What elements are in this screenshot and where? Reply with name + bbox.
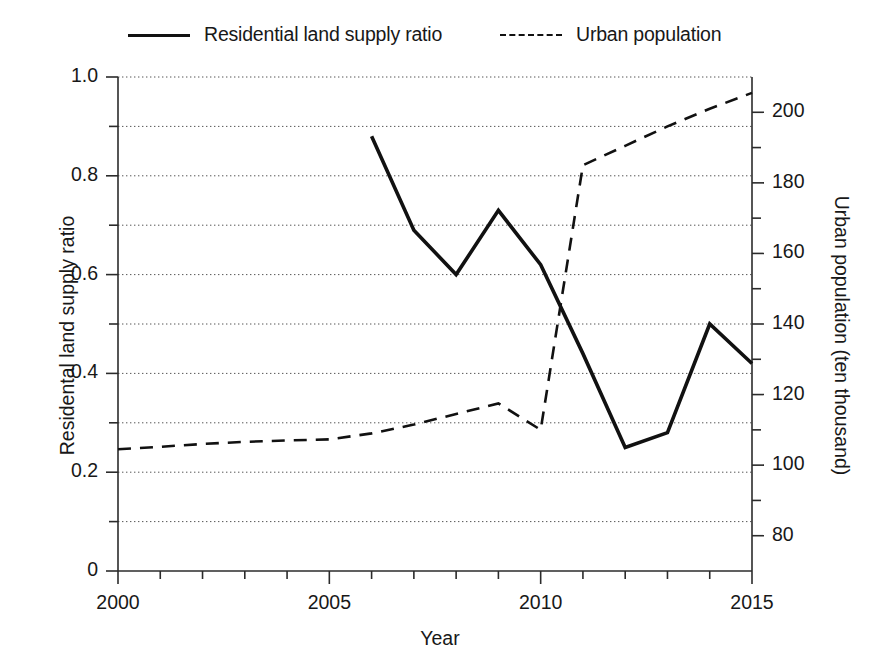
y-right-tick-label: 100 (772, 452, 832, 475)
y-left-tick-label: 0.6 (38, 262, 98, 285)
y-right-tick-label: 160 (772, 240, 832, 263)
plot-area (0, 0, 880, 663)
y-right-tick-label: 80 (772, 523, 832, 546)
chart-figure: Residential land supply ratio Urban popu… (0, 0, 880, 663)
x-tick-label: 2005 (289, 591, 369, 614)
legend-item-residential-land-supply-ratio[interactable]: Residential land supply ratio (128, 23, 442, 46)
legend-item-label: Urban population (576, 23, 721, 46)
y-left-tick-label: 1.0 (38, 64, 98, 87)
axis-ticks (106, 77, 764, 584)
y-right-tick-label: 120 (772, 382, 832, 405)
y-right-tick-label: 200 (772, 99, 832, 122)
y-left-tick-label: 0.4 (38, 360, 98, 383)
x-tick-label: 2000 (78, 591, 158, 614)
chart-legend: Residential land supply ratio Urban popu… (0, 18, 880, 58)
data-series-layer (118, 93, 752, 449)
x-axis-title: Year (0, 627, 880, 650)
y-left-tick-label: 0.2 (38, 459, 98, 482)
y-right-tick-label: 180 (772, 170, 832, 193)
legend-item-label: Residential land supply ratio (204, 23, 442, 46)
series-line-urban-population (118, 93, 752, 449)
legend-solid-line-icon (128, 27, 190, 43)
legend-dashed-line-icon (500, 27, 562, 43)
legend-item-urban-population[interactable]: Urban population (500, 23, 721, 46)
y-left-tick-label: 0.8 (38, 163, 98, 186)
y-left-tick-label: 0 (38, 558, 98, 581)
x-tick-label: 2010 (501, 591, 581, 614)
x-tick-label: 2015 (712, 591, 792, 614)
y-axis-right-title: Urban population (ten thousand) (830, 106, 853, 566)
y-right-tick-label: 140 (772, 311, 832, 334)
gridlines (118, 77, 752, 522)
